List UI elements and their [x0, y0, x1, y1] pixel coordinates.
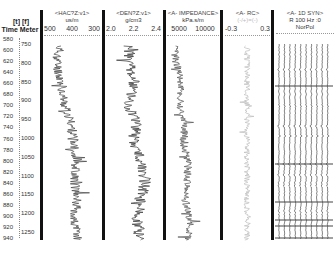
time-tick-label: 780	[3, 147, 13, 153]
depth-units: [t] [f]	[2, 18, 40, 26]
depth-tick-label: 1050	[21, 154, 34, 160]
depth-tick-label: 900	[21, 97, 31, 103]
time-tick-label: 820	[3, 169, 13, 175]
track-unit: R 100 Hz :0	[276, 17, 334, 24]
time-tick-label: 660	[3, 80, 13, 86]
track-header-rc: <A- RC> (-/+)=(-) -0.3 0.3	[225, 10, 270, 37]
time-tick-label: 700	[3, 102, 13, 108]
track-unit: kPa.s/m	[167, 17, 219, 24]
reflection-coefficient-curve	[223, 46, 271, 240]
impedance-curve	[166, 46, 220, 240]
depth-title: Time Meter	[0, 26, 40, 34]
time-tick-label: 940	[3, 235, 13, 241]
depth-axis-line	[19, 38, 20, 238]
track-name: <A- 1D SYN>	[276, 10, 334, 17]
track-unit: (-/+)=(-)	[225, 17, 270, 24]
depth-tick-label: 1000	[21, 135, 34, 141]
sonic-curve	[43, 46, 102, 240]
depth-tick-label: 750	[21, 41, 31, 47]
time-tick-label: 840	[3, 180, 13, 186]
time-tick-label: 680	[3, 91, 13, 97]
time-tick-label: 900	[3, 213, 13, 219]
synthetic-seismogram	[275, 44, 335, 240]
track-polarity: NorPol	[276, 24, 334, 31]
track-scale: 500 400 300	[44, 25, 100, 33]
scale-line	[106, 35, 161, 37]
track-name: <A- RC>	[225, 10, 270, 17]
time-tick-label: 720	[3, 113, 13, 119]
scale-line	[276, 33, 334, 35]
depth-tick-label: 850	[21, 79, 31, 85]
track-unit: g/cm3	[106, 17, 161, 24]
track-name: <DEN?Z:v1>	[106, 10, 161, 17]
density-curve	[105, 46, 163, 240]
depth-tick-label: 800	[21, 60, 31, 66]
time-tick-label: 800	[3, 158, 13, 164]
track-scale: 2.0 2.2 2.4	[106, 25, 161, 33]
depth-tick-label: 950	[21, 116, 31, 122]
track-scale: 5000 10000	[167, 25, 219, 33]
track-header-sonic: <HAC?Z:v1> us/m 500 400 300	[44, 10, 100, 37]
depth-tick-label: 1200	[21, 210, 34, 216]
depth-tick-label: 1150	[21, 191, 34, 197]
time-tick-label: 880	[3, 202, 13, 208]
track-name: <A- IMPEDANCE>	[167, 10, 219, 17]
time-tick-label: 600	[3, 47, 13, 53]
scale-line	[44, 35, 100, 37]
depth-tick-label: 1250	[21, 229, 34, 235]
time-tick-label: 860	[3, 191, 13, 197]
depth-header: [t] [f] Time Meter	[2, 18, 40, 34]
track-divider	[271, 10, 274, 240]
time-tick-label: 740	[3, 124, 13, 130]
time-tick-label: 640	[3, 69, 13, 75]
scale-line	[167, 35, 219, 37]
track-unit: us/m	[44, 17, 100, 24]
track-header-density: <DEN?Z:v1> g/cm3 2.0 2.2 2.4	[106, 10, 161, 37]
scale-line	[225, 35, 270, 37]
time-tick-label: 920	[3, 224, 13, 230]
depth-tick-label: 1100	[21, 173, 34, 179]
track-header-impedance: <A- IMPEDANCE> kPa.s/m 5000 10000	[167, 10, 219, 37]
time-tick-label: 580	[3, 36, 13, 42]
track-name: <HAC?Z:v1>	[44, 10, 100, 17]
time-tick-label: 760	[3, 136, 13, 142]
track-header-synthetic: <A- 1D SYN> R 100 Hz :0 NorPol	[276, 10, 334, 35]
track-scale: -0.3 0.3	[225, 25, 270, 33]
time-tick-label: 620	[3, 58, 13, 64]
